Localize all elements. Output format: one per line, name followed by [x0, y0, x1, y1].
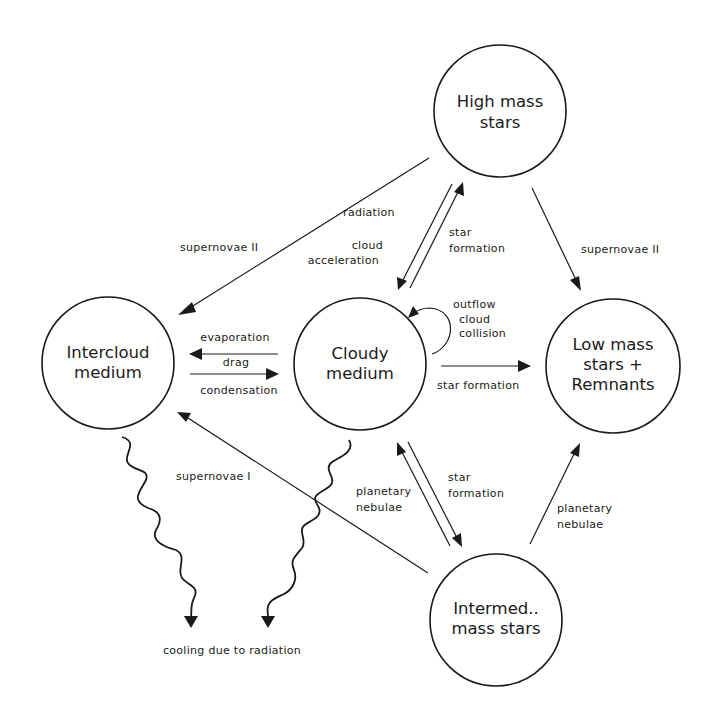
- edge-planetary-nebulae-to-low-mass: planetary nebulae: [530, 443, 612, 544]
- edge-star-formation-to-high-mass: star formation: [410, 182, 505, 288]
- edge-label: formation: [448, 487, 504, 500]
- arrowhead-icon: [570, 443, 580, 457]
- node-label: stars: [480, 113, 521, 132]
- edge-label: acceleration: [308, 254, 379, 267]
- arrowhead-icon: [189, 348, 202, 360]
- edge-planetary-nebulae-to-cloudy: planetary nebulae: [356, 442, 450, 546]
- edge-label: supernovae I: [176, 470, 251, 483]
- edge-label: evaporation: [200, 331, 269, 344]
- edge-label: planetary: [557, 502, 612, 515]
- cooling-label: cooling due to radiation: [163, 644, 301, 657]
- edge-label: nebulae: [557, 518, 603, 531]
- arrowhead-icon: [518, 360, 531, 372]
- node-label: Remnants: [571, 375, 654, 394]
- edge-label: planetary: [356, 485, 411, 498]
- node-intercloud-medium: Intercloud medium: [42, 297, 174, 429]
- edge-label: star: [448, 471, 471, 484]
- edge-label: supernovae II: [581, 243, 659, 256]
- node-intermediate-mass-stars: Intermed.. mass stars: [430, 554, 562, 686]
- node-label: medium: [74, 363, 142, 382]
- arrowhead-icon: [570, 276, 581, 291]
- edge-supernovae-ii-to-low-mass: supernovae II: [532, 188, 659, 291]
- node-label: Cloudy: [332, 344, 389, 363]
- arrowhead-icon: [397, 442, 406, 456]
- arrowhead-icon: [177, 412, 191, 422]
- node-cloudy-medium: Cloudy medium: [294, 298, 426, 430]
- edge-label: drag: [223, 356, 249, 369]
- arrowhead-icon: [408, 306, 419, 318]
- edge-star-formation-to-intermed: star formation: [408, 442, 504, 547]
- node-label: Intermed..: [453, 599, 539, 618]
- node-label: High mass: [457, 92, 544, 111]
- node-label: Low mass: [572, 335, 653, 354]
- edge-supernovae-ii-to-intercloud: supernovae II: [178, 158, 429, 315]
- edge-label: supernovae II: [180, 241, 258, 254]
- edge-drag-condensation: drag condensation: [190, 356, 279, 397]
- edge-label: formation: [449, 242, 505, 255]
- node-high-mass-stars: High mass stars: [434, 45, 566, 177]
- edge-label: collision: [459, 327, 506, 340]
- arrowhead-icon: [261, 616, 275, 628]
- edge-star-formation-to-low-mass: star formation: [437, 360, 531, 392]
- edge-radiation-cloud-acceleration: radiation cloud acceleration: [308, 184, 452, 290]
- arrowhead-icon: [266, 368, 279, 380]
- edge-label: cloud: [459, 313, 490, 326]
- node-label: Intercloud: [66, 343, 149, 362]
- edge-label: condensation: [200, 384, 278, 397]
- edge-label: star formation: [437, 379, 519, 392]
- node-label: mass stars: [451, 619, 540, 638]
- node-label: stars +: [583, 355, 643, 374]
- edge-cooling-from-intercloud: [122, 437, 198, 628]
- edge-label: star: [449, 226, 472, 239]
- arrowhead-icon: [454, 182, 464, 196]
- arrowhead-icon: [452, 533, 462, 547]
- edge-cooling-from-cloudy: [261, 440, 351, 628]
- arrowhead-icon: [397, 277, 407, 290]
- edge-label: radiation: [343, 206, 395, 219]
- arrowhead-icon: [178, 302, 196, 315]
- node-label: medium: [326, 364, 394, 383]
- node-low-mass-stars-remnants: Low mass stars + Remnants: [546, 299, 680, 433]
- edge-label: outflow: [453, 298, 496, 311]
- edge-label: nebulae: [356, 501, 402, 514]
- galactic-matter-cycle-diagram: High mass stars Intercloud medium Cloudy…: [0, 0, 713, 724]
- edge-label: cloud: [352, 239, 383, 252]
- arrowhead-icon: [184, 616, 198, 628]
